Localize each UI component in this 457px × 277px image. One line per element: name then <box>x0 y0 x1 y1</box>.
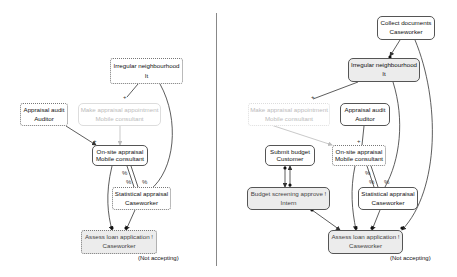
node-role: Mobile consultant <box>265 116 313 122</box>
node-role: It <box>382 71 385 77</box>
left-node-make-appraisal-appointment[interactable]: Make appraisal appointment Mobile consul… <box>78 103 161 126</box>
node-title: On-site appraisal <box>97 149 144 155</box>
node-title: Collect documents <box>381 20 432 26</box>
node-role: Auditor <box>355 116 375 122</box>
right-node-appraisal-audit[interactable]: Appraisal audit Auditor <box>340 103 390 126</box>
node-role: Customer <box>277 156 304 162</box>
node-title: Irregular neighbourhood <box>351 62 417 68</box>
node-title: Appraisal audit <box>24 107 65 113</box>
left-edge-label-percent: % <box>126 179 131 185</box>
right-node-on-site-appraisal[interactable]: On-site appraisal Mobile consultant <box>332 145 386 166</box>
node-role: Caseworker <box>371 200 404 206</box>
right-edge-label-percent: % <box>365 170 370 176</box>
left-not-accepting-note: (Not accepting) <box>138 255 179 261</box>
right-node-irregular-neighbourhood[interactable]: Irregular neighbourhood It <box>348 58 420 82</box>
left-node-statistical-appraisal[interactable]: Statistical appraisal Caseworker <box>112 187 171 210</box>
node-title: Irregular neighbourhood <box>113 63 179 69</box>
node-role: Caseworker <box>102 243 135 249</box>
node-title: Appraisal audit <box>345 107 386 113</box>
node-title: Statistical appraisal <box>361 191 414 197</box>
right-node-submit-budget[interactable]: Submit budget Customer <box>265 145 315 166</box>
right-edge-label-percent: % <box>384 179 389 185</box>
left-edge-label-plus: + <box>123 94 127 100</box>
node-title: Assess loan application ! <box>85 234 153 240</box>
left-node-on-site-appraisal[interactable]: On-site appraisal Mobile consultant <box>92 145 148 166</box>
node-role: Mobile consultant <box>96 156 144 162</box>
node-title: Budget screening approve ! <box>251 191 327 197</box>
node-role: Caseworker <box>349 243 382 249</box>
right-node-assess-loan-application[interactable]: Assess loan application ! Caseworker <box>328 230 403 254</box>
node-role: Mobile consultant <box>335 156 383 162</box>
right-node-collect-documents[interactable]: Collect documents Caseworker <box>377 16 435 40</box>
node-title: Statistical appraisal <box>115 191 168 197</box>
node-title: Make appraisal appointment <box>250 107 328 113</box>
node-role: Intern <box>281 200 297 206</box>
right-node-statistical-appraisal[interactable]: Statistical appraisal Caseworker <box>358 187 418 210</box>
node-role: Caseworker <box>125 200 158 206</box>
right-node-budget-screening-approve[interactable]: Budget screening approve ! Intern <box>247 187 330 210</box>
right-edge-label-plus: + <box>311 94 315 100</box>
node-role: Caseworker <box>389 29 422 35</box>
left-edge-label-plus: + <box>93 138 97 144</box>
node-role: Auditor <box>34 116 54 122</box>
left-node-irregular-neighbourhood[interactable]: Irregular neighbourhood It <box>110 58 183 84</box>
left-node-assess-loan-application[interactable]: Assess loan application ! Caseworker <box>81 230 157 254</box>
node-title: Submit budget <box>270 149 310 155</box>
right-edge-label-plus: + <box>357 138 361 144</box>
left-edge-label-percent: % <box>122 170 127 176</box>
right-not-accepting-note: (Not accepting) <box>390 255 431 261</box>
panel-divider <box>216 13 217 266</box>
node-role: Mobile consultant <box>95 116 143 122</box>
left-node-appraisal-audit[interactable]: Appraisal audit Auditor <box>20 103 68 126</box>
left-edge-label-percent: % <box>142 179 147 185</box>
node-title: Make appraisal appointment <box>81 107 159 113</box>
node-title: Assess loan application ! <box>331 234 399 240</box>
node-title: On-site appraisal <box>336 149 383 155</box>
right-node-make-appraisal-appointment[interactable]: Make appraisal appointment Mobile consul… <box>248 103 330 126</box>
node-role: It <box>145 73 148 79</box>
right-edge-label-percent: % <box>369 179 374 185</box>
